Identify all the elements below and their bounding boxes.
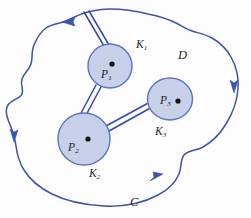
label-curve-C: C xyxy=(130,196,138,209)
curve-direction-arrows xyxy=(10,17,238,181)
label-point-P3: P3 xyxy=(160,95,171,108)
right-arrow-icon xyxy=(230,80,238,93)
label-point-P2-base: P xyxy=(68,141,75,153)
label-disk-K1-sub: 1 xyxy=(144,44,148,52)
figure-diagram xyxy=(0,0,251,218)
label-region-D-text: D xyxy=(178,48,187,62)
slit-C-to-K1 xyxy=(84,11,109,46)
label-disk-K2: K2 xyxy=(89,168,100,181)
label-disk-K2-base: K xyxy=(89,167,97,179)
left-arrow-icon xyxy=(10,129,18,142)
bottom-arrow-icon xyxy=(150,172,163,181)
label-point-P1-sub: 1 xyxy=(108,74,112,82)
label-region-D: D xyxy=(178,49,187,62)
label-disk-K1-base: K xyxy=(136,38,144,50)
label-curve-C-text: C xyxy=(130,195,138,209)
label-disk-K1: K1 xyxy=(136,39,147,52)
figure-canvas: D C P1 P2 P3 K1 K2 K3 xyxy=(0,0,251,218)
label-point-P1-base: P xyxy=(101,68,108,80)
label-disk-K3-base: K xyxy=(155,125,163,137)
slit-K1-to-K2 xyxy=(80,85,101,117)
slit-K2-to-K3 xyxy=(106,101,154,131)
center-dot-P3 xyxy=(175,98,180,103)
top-arrow-icon xyxy=(62,17,75,26)
label-point-P1: P1 xyxy=(101,69,112,82)
center-dot-P2 xyxy=(85,136,90,141)
outer-boundary-curve-C xyxy=(6,9,238,206)
disk-K2 xyxy=(58,113,110,165)
label-point-P3-base: P xyxy=(160,94,167,106)
label-point-P2: P2 xyxy=(68,142,79,155)
label-point-P2-sub: 2 xyxy=(75,147,79,155)
label-disk-K3: K3 xyxy=(155,126,166,139)
label-disk-K2-sub: 2 xyxy=(97,173,101,181)
center-dot-P1 xyxy=(109,61,114,66)
label-disk-K3-sub: 3 xyxy=(163,131,167,139)
label-point-P3-sub: 3 xyxy=(167,100,171,108)
